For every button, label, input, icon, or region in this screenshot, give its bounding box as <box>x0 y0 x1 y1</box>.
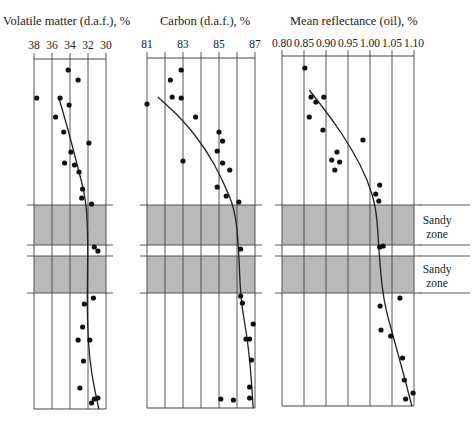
x-tick-label: 83 <box>177 38 189 50</box>
data-point <box>82 301 87 306</box>
data-point <box>402 377 407 382</box>
data-point <box>66 67 71 72</box>
data-point <box>302 65 307 70</box>
data-point <box>180 158 185 163</box>
trend-line <box>158 97 253 408</box>
data-point <box>179 67 184 72</box>
data-point <box>58 95 63 100</box>
data-point <box>376 198 381 203</box>
data-point <box>403 396 408 401</box>
sandy-zone-label-1: Sandy zone <box>423 214 452 240</box>
data-point <box>215 184 220 189</box>
data-point <box>76 77 81 82</box>
data-point <box>329 157 334 162</box>
data-point <box>218 396 223 401</box>
data-point <box>79 195 84 200</box>
data-point <box>76 337 81 342</box>
data-point <box>227 167 232 172</box>
data-point <box>216 129 221 134</box>
x-tick-label: 1.05 <box>382 37 402 49</box>
x-tick-label: 0.90 <box>316 37 336 49</box>
data-point <box>231 397 236 402</box>
data-point <box>320 127 325 132</box>
data-point <box>334 149 339 154</box>
data-point <box>360 137 365 142</box>
data-point <box>80 186 85 191</box>
x-tick-label: 1.00 <box>360 37 380 49</box>
data-point <box>224 193 229 198</box>
x-tick-label: 1.10 <box>404 37 424 49</box>
x-tick-label: 0.95 <box>338 37 358 49</box>
data-point <box>373 191 378 196</box>
data-point <box>240 300 245 305</box>
data-point <box>68 149 73 154</box>
data-point <box>400 355 405 360</box>
data-point <box>89 400 94 405</box>
zone-label-line1: Sandy <box>423 263 452 276</box>
data-point <box>238 246 243 251</box>
data-point <box>411 390 416 395</box>
data-point <box>76 169 81 174</box>
trend-line <box>309 90 412 406</box>
data-point <box>72 162 77 167</box>
data-point <box>95 395 100 400</box>
data-point <box>308 94 313 99</box>
data-point <box>247 336 252 341</box>
trend-lines <box>58 90 412 409</box>
coal-rank-depth-chart: Volatile matter (d.a.f.), % Carbon (d.a.… <box>0 0 472 422</box>
data-point <box>220 138 225 143</box>
data-point <box>193 114 198 119</box>
data-point <box>313 99 318 104</box>
x-tick-label: 32 <box>82 39 94 51</box>
data-point <box>67 102 72 107</box>
tick-labels: 3836343230818385870.800.850.900.951.001.… <box>28 37 424 51</box>
x-tick-label: 38 <box>28 39 40 51</box>
carbon-panel-title: Carbon (d.a.f.), % <box>160 14 250 28</box>
data-point <box>53 114 58 119</box>
data-point <box>378 303 383 308</box>
data-point <box>62 160 67 165</box>
zone-label-line2: zone <box>426 277 448 289</box>
data-point <box>91 295 96 300</box>
data-point <box>34 95 39 100</box>
data-point <box>378 327 383 332</box>
zone-label-line1: Sandy <box>423 214 452 227</box>
zone-label-line2: zone <box>426 228 448 240</box>
data-point <box>397 295 402 300</box>
data-point <box>220 160 225 165</box>
sandy-zone-label-2: Sandy zone <box>423 263 452 289</box>
data-point <box>236 199 241 204</box>
data-point <box>247 384 252 389</box>
data-point <box>249 357 254 362</box>
data-point <box>332 167 337 172</box>
data-point <box>170 94 175 99</box>
reflectance-panel-title: Mean reflectance (oil), % <box>290 14 418 28</box>
data-point <box>251 321 256 326</box>
x-tick-label: 87 <box>249 38 261 50</box>
data-point <box>337 159 342 164</box>
x-tick-label: 81 <box>141 38 153 50</box>
vm-panel-title: Volatile matter (d.a.f.), % <box>3 14 130 28</box>
data-point <box>321 94 326 99</box>
data-point <box>144 101 149 106</box>
x-tick-label: 30 <box>100 39 112 51</box>
data-point <box>81 358 86 363</box>
data-point <box>215 148 220 153</box>
sandy-zone-shading <box>34 205 414 293</box>
data-point <box>87 337 92 342</box>
data-point <box>168 77 173 82</box>
data-point <box>179 95 184 100</box>
data-point <box>388 333 393 338</box>
x-tick-label: 0.85 <box>294 37 314 49</box>
data-point <box>92 244 97 249</box>
data-point <box>89 201 94 206</box>
x-tick-label: 34 <box>64 39 76 51</box>
data-point <box>61 129 66 134</box>
data-point <box>95 248 100 253</box>
data-point <box>238 293 243 298</box>
data-point <box>307 114 312 119</box>
data-point <box>377 182 382 187</box>
data-point <box>381 243 386 248</box>
x-tick-label: 85 <box>213 38 225 50</box>
data-point <box>77 385 82 390</box>
